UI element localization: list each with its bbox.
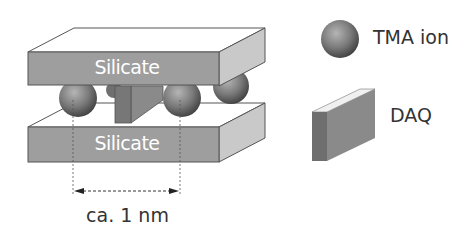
legend-tma-label: TMA ion: [373, 26, 449, 48]
legend-daq-label: DAQ: [390, 104, 432, 126]
spacing-label: ca. 1 nm: [70, 204, 185, 226]
top-silicate-label: Silicate: [82, 56, 172, 78]
spacing-arrow: [74, 188, 179, 194]
block-icon: [312, 89, 375, 161]
bottom-silicate-label: Silicate: [82, 132, 172, 154]
sphere-icon: [321, 20, 359, 58]
